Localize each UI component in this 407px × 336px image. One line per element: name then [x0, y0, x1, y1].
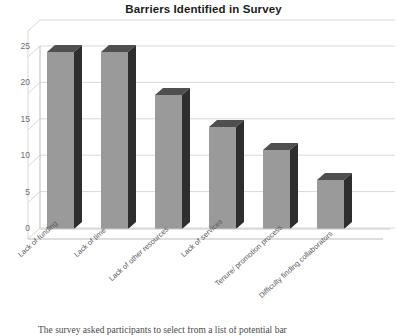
y-tick-label: 5: [8, 187, 30, 197]
y-tick-label: 0: [8, 223, 30, 233]
bar-column: [209, 120, 244, 229]
chart-plot-area: [0, 0, 407, 336]
y-tick-label: 15: [8, 114, 30, 124]
bar-column: [47, 45, 82, 229]
bar-column: [155, 88, 190, 229]
bar-column: [101, 45, 136, 229]
chart-figure: Barriers Identified in Survey: [0, 0, 407, 336]
bar-column: [263, 143, 298, 229]
figure-caption: The survey asked participants to select …: [0, 326, 407, 336]
y-tick-label: 10: [8, 150, 30, 160]
bar-column: [317, 173, 352, 229]
y-tick-label: 20: [8, 77, 30, 87]
y-tick-label: 25: [8, 41, 30, 51]
caption-text: The survey asked participants to select …: [38, 326, 287, 335]
